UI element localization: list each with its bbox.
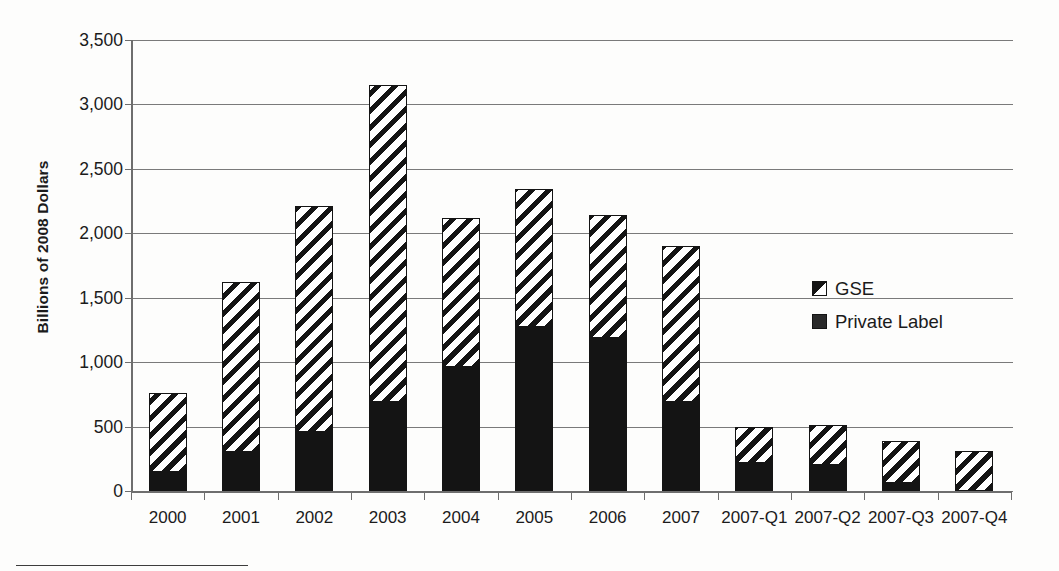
legend-item-gse: GSE <box>812 272 1012 305</box>
bar-stack <box>735 427 773 491</box>
x-axis-tick-mark <box>498 491 499 500</box>
x-axis-tick-marks <box>131 491 1011 501</box>
bar-group <box>791 40 864 491</box>
bar-group <box>498 40 571 491</box>
bar-segment-gse <box>222 282 260 452</box>
chart-legend: GSE Private Label <box>812 272 1012 338</box>
bar-segment-private-label <box>735 463 773 491</box>
bar-stack <box>955 451 993 491</box>
legend-label-gse: GSE <box>835 278 874 300</box>
bar-group <box>131 40 204 491</box>
x-axis-tick-mark <box>424 491 425 500</box>
bar-segment-private-label <box>589 338 627 491</box>
bar-group <box>864 40 937 491</box>
bar-stack <box>882 441 920 491</box>
x-axis-tick-labels: 200020012002200320042005200620072007-Q12… <box>131 508 1011 534</box>
x-axis-tick-mark <box>1011 491 1012 500</box>
bar-segment-gse <box>662 246 700 402</box>
x-axis-tick-label: 2002 <box>295 508 333 528</box>
x-axis-tick-mark <box>204 491 205 500</box>
bar-segment-gse <box>515 189 553 327</box>
y-axis-tick-labels: 3,5003,0002,5002,0001,5001,0005000 <box>33 40 123 491</box>
bar-stack <box>809 425 847 491</box>
x-axis-tick-label: 2007-Q3 <box>868 508 934 528</box>
bar-stack <box>295 206 333 491</box>
x-axis-tick-mark <box>278 491 279 500</box>
y-axis-tick-label: 1,000 <box>37 352 123 373</box>
bar-segment-gse <box>882 441 920 484</box>
bar-segment-private-label <box>809 465 847 491</box>
bar-group <box>644 40 717 491</box>
x-axis-tick-label: 2007 <box>662 508 700 528</box>
bar-group <box>718 40 791 491</box>
y-axis-tick-label: 0 <box>37 481 123 502</box>
bar-group <box>571 40 644 491</box>
x-axis-tick-mark <box>938 491 939 500</box>
bar-segment-gse <box>589 215 627 337</box>
x-axis-tick-label: 2005 <box>515 508 553 528</box>
bar-group <box>278 40 351 491</box>
chart-figure: Billions of 2008 Dollars 3,5003,0002,500… <box>0 0 1059 571</box>
y-axis-tick-label: 2,500 <box>37 158 123 179</box>
bar-stack <box>149 393 187 491</box>
bar-segment-private-label <box>882 483 920 491</box>
x-axis-tick-label: 2003 <box>369 508 407 528</box>
bar-series-container <box>131 40 1011 491</box>
bar-group <box>204 40 277 491</box>
x-axis-tick-label: 2004 <box>442 508 480 528</box>
bar-stack <box>442 218 480 491</box>
legend-label-private-label: Private Label <box>835 311 943 333</box>
x-axis-tick-label: 2000 <box>149 508 187 528</box>
bar-stack <box>589 215 627 491</box>
bar-segment-gse <box>149 393 187 472</box>
bar-segment-gse <box>442 218 480 367</box>
bar-segment-gse <box>955 451 993 491</box>
bar-segment-gse <box>295 206 333 432</box>
bar-group <box>938 40 1011 491</box>
x-axis-tick-mark <box>718 491 719 500</box>
bar-group <box>424 40 497 491</box>
bar-segment-private-label <box>369 402 407 491</box>
x-axis-tick-label: 2006 <box>589 508 627 528</box>
x-axis-tick-label: 2007-Q2 <box>795 508 861 528</box>
bar-segment-gse <box>809 425 847 465</box>
x-axis-tick-mark <box>351 491 352 500</box>
bar-segment-gse <box>735 427 773 463</box>
x-axis-tick-mark <box>131 491 132 500</box>
bar-segment-private-label <box>222 452 260 491</box>
y-axis-tick-label: 1,500 <box>37 287 123 308</box>
bar-segment-private-label <box>662 402 700 491</box>
x-axis-tick-mark <box>864 491 865 500</box>
legend-swatch-private-label-icon <box>812 314 827 329</box>
legend-swatch-gse-icon <box>812 281 827 296</box>
x-axis-tick-label: 2007-Q1 <box>721 508 787 528</box>
bar-segment-private-label <box>515 327 553 491</box>
bar-group <box>351 40 424 491</box>
bar-stack <box>222 282 260 491</box>
bar-segment-private-label <box>149 472 187 491</box>
bar-stack <box>662 246 700 491</box>
x-axis-tick-label: 2007-Q4 <box>941 508 1007 528</box>
bar-stack <box>515 189 553 491</box>
legend-item-private-label: Private Label <box>812 305 1012 338</box>
y-axis-tick-label: 500 <box>37 416 123 437</box>
y-axis-tick-label: 3,500 <box>37 30 123 51</box>
y-axis-tick-label: 2,000 <box>37 223 123 244</box>
bar-segment-private-label <box>295 432 333 491</box>
bar-stack <box>369 85 407 491</box>
y-axis-tick-label: 3,000 <box>37 94 123 115</box>
bar-segment-gse <box>369 85 407 402</box>
x-axis-tick-mark <box>571 491 572 500</box>
x-axis-tick-label: 2001 <box>222 508 260 528</box>
footer-rule <box>16 565 248 566</box>
x-axis-tick-mark <box>791 491 792 500</box>
x-axis-tick-mark <box>644 491 645 500</box>
bar-segment-private-label <box>442 367 480 491</box>
